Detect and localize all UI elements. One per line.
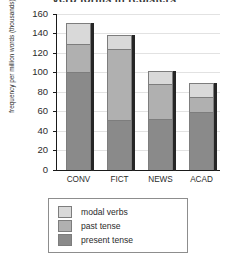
bar-acad[interactable]: ACAD <box>189 83 214 170</box>
bar-news[interactable]: NEWS <box>148 71 173 169</box>
legend-swatch-modal-verbs <box>58 206 72 218</box>
y-axis-tick: 100 <box>53 72 56 73</box>
bar-segment-past-tense[interactable] <box>189 97 214 113</box>
bar-segment-present-tense[interactable] <box>148 119 173 170</box>
y-axis-tick-label: 60 <box>37 107 48 117</box>
bar-segment-present-tense[interactable] <box>66 72 91 169</box>
bar-fict[interactable]: FICT <box>107 35 132 169</box>
plot-area: 020406080100120140160 CONVFICTNEWSACAD <box>56 14 220 171</box>
bar-segment-past-tense[interactable] <box>107 49 132 120</box>
y-axis-tick: 140 <box>53 33 56 34</box>
bar-segment-modal-verbs[interactable] <box>107 35 132 49</box>
bar-segment-modal-verbs[interactable] <box>66 23 91 44</box>
y-axis-tick-label: 100 <box>32 68 48 78</box>
y-axis-tick: 20 <box>53 150 56 151</box>
y-axis-tick: 120 <box>53 53 56 54</box>
y-axis-tick: 60 <box>53 111 56 112</box>
x-axis-label-acad: ACAD <box>190 175 213 184</box>
y-axis-tick: 160 <box>53 14 56 15</box>
bar-shadow <box>214 83 217 171</box>
legend-item[interactable]: modal verbs <box>58 205 187 219</box>
bar-shadow <box>173 71 176 171</box>
y-axis-tick: 80 <box>53 92 56 93</box>
y-axis-tick-label: 40 <box>37 126 48 136</box>
legend-label: present tense <box>81 235 133 245</box>
y-axis-title: frequency per million words (thousands) <box>8 0 16 115</box>
y-axis-tick-label: 120 <box>32 48 48 58</box>
bar-conv[interactable]: CONV <box>66 23 91 170</box>
legend-swatch-present-tense <box>58 234 72 246</box>
bar-shadow <box>132 35 135 171</box>
x-axis-label-fict: FICT <box>110 175 128 184</box>
legend-label: past tense <box>81 221 121 231</box>
legend-item[interactable]: past tense <box>58 219 187 233</box>
chart-title: verb forms in registers <box>0 0 229 2</box>
y-axis-line <box>56 14 57 171</box>
bar-segment-present-tense[interactable] <box>189 112 214 169</box>
y-axis-tick-label: 80 <box>37 87 48 97</box>
legend-item[interactable]: present tense <box>58 233 187 247</box>
bar-segment-modal-verbs[interactable] <box>148 71 173 84</box>
bar-segment-past-tense[interactable] <box>148 84 173 119</box>
y-axis-tick: 40 <box>53 131 56 132</box>
y-axis-tick: 0 <box>53 170 56 171</box>
bar-segment-present-tense[interactable] <box>107 120 132 170</box>
y-axis-tick-label: 0 <box>43 165 48 175</box>
bar-segment-modal-verbs[interactable] <box>189 83 214 97</box>
gridline <box>57 14 220 15</box>
chart-legend: modal verbspast tensepresent tense <box>48 198 188 253</box>
y-axis-tick-label: 160 <box>32 9 48 19</box>
legend-swatch-past-tense <box>58 220 72 232</box>
x-axis-line <box>56 170 220 171</box>
y-axis-tick-label: 20 <box>37 145 48 155</box>
bar-segment-past-tense[interactable] <box>66 44 91 72</box>
y-axis-tick-label: 140 <box>32 29 48 39</box>
bar-shadow <box>91 23 94 171</box>
x-axis-label-news: NEWS <box>148 175 173 184</box>
x-axis-label-conv: CONV <box>67 175 91 184</box>
legend-label: modal verbs <box>81 207 128 217</box>
